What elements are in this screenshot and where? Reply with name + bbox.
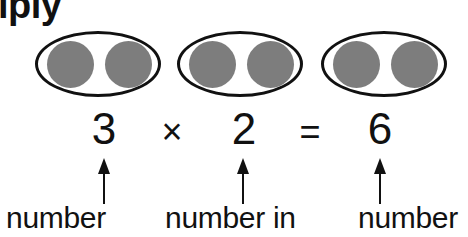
factor2-number: 2 <box>224 107 264 151</box>
dot <box>47 41 94 88</box>
dot <box>189 41 236 88</box>
equals-sign: = <box>290 114 330 150</box>
arrow-up-icon <box>97 158 111 204</box>
dot <box>333 41 380 88</box>
group-2 <box>177 31 303 97</box>
arrow-up-icon <box>236 158 250 204</box>
label-factor2: number in <box>165 203 296 233</box>
title-fragment: iply <box>0 0 61 24</box>
arrow-up-icon <box>373 158 387 204</box>
label-product: number <box>358 203 458 233</box>
product-number: 6 <box>360 107 400 151</box>
dot <box>105 41 152 88</box>
times-sign: × <box>152 114 192 150</box>
dot <box>391 41 438 88</box>
dot <box>247 41 294 88</box>
label-factor1: number <box>6 203 106 233</box>
group-3 <box>321 31 447 97</box>
factor1-number: 3 <box>84 107 124 151</box>
group-1 <box>35 31 161 97</box>
